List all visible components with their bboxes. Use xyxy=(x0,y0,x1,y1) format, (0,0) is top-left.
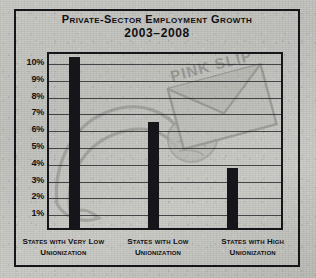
x-axis-category-labels: States with Very Low UnionizationStates … xyxy=(16,236,300,258)
x-axis-label-3: States with High Unionization xyxy=(205,236,300,258)
y-tick-label-8%: 8% xyxy=(31,91,44,100)
chart-subtitle-year-range: 2003–2008 xyxy=(16,26,298,41)
gridline-2% xyxy=(49,198,281,199)
y-tick-label-3%: 3% xyxy=(31,175,44,184)
gridline-6% xyxy=(49,131,281,132)
bar-1 xyxy=(69,57,80,228)
y-tick-label-10%: 10% xyxy=(27,58,44,67)
y-tick-label-1%: 1% xyxy=(31,209,44,218)
chart-title: Private-Sector Employment Growth xyxy=(16,13,298,26)
gridline-8% xyxy=(49,98,281,99)
gridline-7% xyxy=(49,114,281,115)
x-axis-label-1: States with Very Low Unionization xyxy=(16,236,111,258)
plot-area: PINK SLIP xyxy=(47,52,283,230)
y-tick-label-2%: 2% xyxy=(31,192,44,201)
gridline-4% xyxy=(49,165,281,166)
gridline-9% xyxy=(49,81,281,82)
y-tick-label-6%: 6% xyxy=(31,125,44,134)
y-tick-label-4%: 4% xyxy=(31,158,44,167)
y-tick-label-9%: 9% xyxy=(31,74,44,83)
gridline-5% xyxy=(49,148,281,149)
bar-3 xyxy=(227,168,238,228)
y-tick-label-5%: 5% xyxy=(31,142,44,151)
y-tick-label-7%: 7% xyxy=(31,108,44,117)
chart-title-block: Private-Sector Employment Growth 2003–20… xyxy=(16,13,298,41)
bar-2 xyxy=(148,122,159,228)
gridline-1% xyxy=(49,215,281,216)
gridline-3% xyxy=(49,182,281,183)
x-axis-label-2: States with Low Unionization xyxy=(111,236,206,258)
y-axis-tick-labels: 1%2%3%4%5%6%7%8%9%10% xyxy=(16,52,46,230)
gridline-10% xyxy=(49,64,281,65)
